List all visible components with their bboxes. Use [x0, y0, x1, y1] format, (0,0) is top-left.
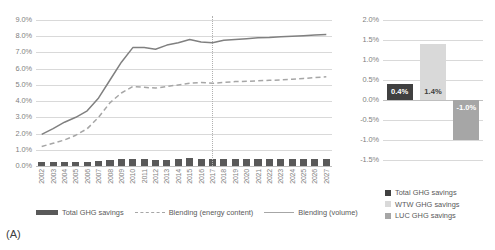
legend-item: LUC GHG savings [385, 211, 456, 220]
panel-b-legend: Total GHG savingsWTW GHG savingsLUC GHG … [385, 188, 459, 220]
bar: 1.4% [420, 44, 446, 100]
legend-item: Blending (volume) [264, 208, 358, 217]
y-axis-tick-label: 2.0% [16, 130, 32, 137]
x-axis-tick-label: 2016 [198, 169, 205, 184]
x-axis-tick-label: 2023 [277, 169, 284, 184]
x-axis-tick-label: 2007 [95, 169, 102, 184]
y-axis-tick-label: 7.0% [16, 49, 32, 56]
panel-a-legend: Total GHG savingsBlending (energy conten… [36, 208, 358, 217]
legend-item: Total GHG savings [36, 208, 124, 217]
bar-value-label: 1.4% [420, 88, 446, 96]
y-axis-tick-label: 0.0% [363, 96, 379, 103]
legend-swatch-icon [385, 201, 391, 207]
x-axis-tick-label: 2021 [255, 169, 262, 184]
x-axis-tick-label: 2012 [152, 169, 159, 184]
gridline [383, 160, 483, 161]
y-axis-tick-label: 1.5% [363, 36, 379, 43]
legend-swatch-dashed-icon [135, 212, 165, 213]
figure-container: 9.0%8.0%7.0%6.0%5.0%4.0%3.0%2.0%1.0%0.0%… [0, 0, 495, 250]
legend-label: Total GHG savings [395, 188, 457, 197]
bar-value-label: 0.4% [387, 88, 413, 96]
gridline [383, 20, 483, 21]
y-axis-tick-label: 4.0% [16, 97, 32, 104]
y-axis-tick-label: 5.0% [16, 81, 32, 88]
panel-a-plot-area: 9.0%8.0%7.0%6.0%5.0%4.0%3.0%2.0%1.0%0.0%… [36, 20, 332, 166]
x-axis-tick-label: 2006 [84, 169, 91, 184]
x-axis-tick-label: 2009 [118, 169, 125, 184]
y-axis-tick-label: -1.0% [360, 136, 379, 143]
legend-swatch-icon [385, 213, 391, 219]
bar: 0.4% [387, 84, 413, 100]
x-axis-tick-label: 2003 [50, 169, 57, 184]
legend-swatch-bar-icon [36, 210, 58, 215]
y-axis-tick-label: -1.5% [360, 156, 379, 163]
legend-label: Total GHG savings [62, 208, 124, 217]
legend-label: WTW GHG savings [395, 200, 459, 209]
legend-item: Blending (energy content) [135, 208, 254, 217]
y-axis-tick-label: 2.0% [363, 16, 379, 23]
x-axis-tick-label: 2005 [72, 169, 79, 184]
legend-swatch-solid-icon [264, 212, 294, 213]
x-axis-tick-label: 2027 [323, 169, 330, 184]
x-axis-tick-label: 2019 [232, 169, 239, 184]
x-axis-tick-label: 2025 [300, 169, 307, 184]
x-axis-tick-label: 2013 [163, 169, 170, 184]
legend-item: WTW GHG savings [385, 200, 459, 209]
legend-swatch-icon [385, 190, 391, 196]
x-axis-tick-label: 2017 [209, 169, 216, 184]
y-axis-tick-label: 1.0% [363, 56, 379, 63]
gridline [36, 166, 332, 167]
blending-volume-line [42, 35, 327, 135]
bar-value-label: -1.0% [453, 104, 479, 112]
legend-label: Blending (energy content) [169, 208, 254, 217]
y-axis-tick-label: 9.0% [16, 16, 32, 23]
y-axis-tick-label: 8.0% [16, 33, 32, 40]
y-axis-tick-label: -0.5% [360, 116, 379, 123]
x-axis-tick-label: 2018 [220, 169, 227, 184]
panel-a-tag: (A) [6, 228, 21, 240]
y-axis-tick-label: 1.0% [16, 146, 32, 153]
x-axis-tick-label: 2002 [38, 169, 45, 184]
y-axis-tick-label: 0.5% [363, 76, 379, 83]
x-axis-tick-label: 2011 [141, 169, 148, 183]
x-axis-tick-label: 2004 [61, 169, 68, 184]
panel-a: 9.0%8.0%7.0%6.0%5.0%4.0%3.0%2.0%1.0%0.0%… [0, 0, 345, 250]
bar: -1.0% [453, 100, 479, 140]
x-axis-tick-label: 2022 [266, 169, 273, 184]
y-axis-tick-label: 0.0% [16, 162, 32, 169]
panel-b-plot-area: 2.0%1.5%1.0%0.5%0.0%-0.5%-1.0%-1.5% 0.4%… [383, 20, 483, 160]
legend-item: Total GHG savings [385, 188, 457, 197]
y-axis-tick-label: 3.0% [16, 114, 32, 121]
legend-label: LUC GHG savings [395, 211, 456, 220]
x-axis-tick-label: 2008 [107, 169, 114, 184]
gridline [383, 40, 483, 41]
x-axis-tick-label: 2020 [243, 169, 250, 184]
x-axis-tick-label: 2010 [129, 169, 136, 184]
y-axis-tick-label: 6.0% [16, 65, 32, 72]
x-axis-tick-label: 2014 [175, 169, 182, 184]
panel-b: 2.0%1.5%1.0%0.5%0.0%-0.5%-1.0%-1.5% 0.4%… [345, 0, 495, 250]
x-axis-tick-label: 2026 [311, 169, 318, 184]
x-axis-tick-label: 2024 [289, 169, 296, 184]
gridline [383, 140, 483, 141]
panel-a-line-series [36, 20, 332, 166]
x-axis-tick-label: 2015 [186, 169, 193, 184]
